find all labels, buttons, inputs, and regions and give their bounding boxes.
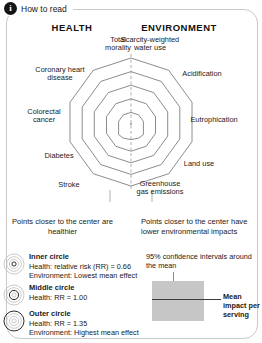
- legend-inner-title: Inner circle: [29, 252, 137, 262]
- column-titles: HEALTH ENVIRONMENT: [0, 22, 262, 33]
- ci-tick-line: [173, 272, 174, 281]
- axis-label-diabetes: Diabetes: [44, 151, 73, 160]
- legend-outer-environment: Environment: Highest mean effect: [29, 328, 139, 337]
- legend-item-outer-circle: Outer circle Health: RR = 1.35 Environme…: [3, 309, 139, 337]
- svg-text:morality: morality: [105, 43, 131, 52]
- legend-outer-title: Outer circle: [29, 309, 139, 319]
- legend-item-middle-text: Middle circle Health: RR = 1.00: [29, 283, 87, 302]
- svg-text:gas emissions: gas emissions: [137, 187, 184, 196]
- how-to-read-badge[interactable]: i How to read: [2, 1, 73, 16]
- legend-outer-health: Health: RR = 1.35: [29, 319, 139, 328]
- explanation-row: Points closer to the center are healthie…: [0, 217, 262, 237]
- info-circle-icon: i: [4, 2, 17, 15]
- environment-explanation: Points closer to the center have lower e…: [131, 217, 262, 237]
- mean-impact-line: [152, 299, 221, 301]
- radar-middle-ring-icon: [3, 284, 25, 306]
- environment-column-title: ENVIRONMENT: [120, 22, 238, 33]
- axis-label-acidification: Acidification: [182, 69, 221, 78]
- legend-middle-health: Health: RR = 1.00: [29, 293, 87, 302]
- legend-inner-health: Health: relative risk (RR) = 0.66: [29, 262, 137, 271]
- confidence-interval-legend: 95% confidence intervals around the mean…: [146, 252, 262, 326]
- svg-text:disease: disease: [47, 73, 72, 82]
- legend-item-middle-circle: Middle circle Health: RR = 1.00: [3, 283, 139, 306]
- ci-box: [152, 281, 204, 321]
- radar-center-dot: [130, 123, 132, 125]
- radar-outer-ring-icon: [3, 310, 25, 332]
- legend-item-inner-text: Inner circle Health: relative risk (RR) …: [29, 252, 137, 280]
- axis-label-stroke: Stroke: [58, 180, 79, 189]
- health-column-title: HEALTH: [24, 22, 120, 33]
- radar-chart: Total morality Coronary heart disease Co…: [0, 34, 262, 224]
- axis-labels: Total morality Coronary heart disease Co…: [27, 35, 237, 196]
- legend-inner-environment: Environment: Lowest mean effect: [29, 271, 137, 280]
- how-to-read-label: How to read: [21, 4, 67, 14]
- ci-graphic: Mean impact per serving: [146, 272, 262, 326]
- axis-label-eutrophication: Eutrophication: [190, 115, 237, 124]
- legend-middle-title: Middle circle: [29, 283, 87, 293]
- svg-text:cancer: cancer: [33, 115, 56, 124]
- legend-section: Inner circle Health: relative risk (RR) …: [0, 252, 262, 340]
- health-explanation: Points closer to the center are healthie…: [0, 217, 131, 237]
- legend-item-inner-circle: Inner circle Health: relative risk (RR) …: [3, 252, 139, 280]
- svg-text:water use: water use: [133, 43, 166, 52]
- ci-caption: 95% confidence intervals around the mean: [146, 252, 262, 271]
- legend-item-outer-text: Outer circle Health: RR = 1.35 Environme…: [29, 309, 139, 337]
- radar-inner-ring-icon: [3, 253, 25, 275]
- ring-legend-list: Inner circle Health: relative risk (RR) …: [3, 252, 139, 341]
- axis-label-land-use: Land use: [184, 159, 214, 168]
- mean-impact-label: Mean impact per serving: [223, 292, 262, 320]
